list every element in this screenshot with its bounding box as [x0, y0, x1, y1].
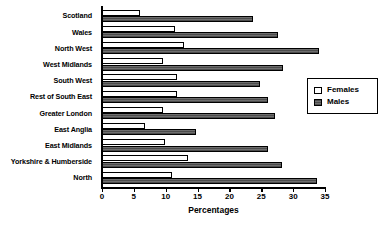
legend-label: Males: [327, 98, 349, 106]
legend-label: Females: [327, 86, 359, 94]
category-label: West Midlands: [0, 61, 96, 68]
category-label: North: [0, 174, 96, 181]
bar-females: [102, 42, 184, 48]
bar-group: [102, 73, 325, 89]
category-label: North West: [0, 45, 96, 52]
bar-group: [102, 57, 325, 73]
bar-females: [102, 139, 165, 145]
bar-chart: ScotlandWalesNorth WestWest MidlandsSout…: [0, 0, 387, 235]
x-tick-label: 10: [161, 193, 170, 201]
bar-group: [102, 121, 325, 137]
bar-males: [102, 65, 283, 71]
bar-females: [102, 155, 188, 161]
category-label: Scotland: [0, 12, 96, 19]
bar-males: [102, 16, 253, 22]
bar-group: [102, 24, 325, 40]
x-tick-label: 30: [289, 193, 298, 201]
bar-males: [102, 129, 196, 135]
bar-males: [102, 146, 268, 152]
x-tick-label: 15: [193, 193, 202, 201]
bar-males: [102, 48, 319, 54]
category-label: East Midlands: [0, 142, 96, 149]
category-label: Rest of South East: [0, 93, 96, 100]
bar-group: [102, 8, 325, 24]
x-tick-label: 0: [100, 193, 104, 201]
x-tick-label: 35: [321, 193, 330, 201]
plot-area: [102, 8, 325, 186]
legend-swatch-females: [314, 87, 322, 94]
bar-females: [102, 123, 145, 129]
category-label: Yorkshire & Humberside: [0, 158, 96, 165]
bar-group: [102, 137, 325, 153]
chart-legend: FemalesMales: [307, 78, 378, 114]
legend-item: Females: [314, 84, 371, 96]
category-label: Greater London: [0, 110, 96, 117]
bar-males: [102, 162, 282, 168]
category-label: East Anglia: [0, 126, 96, 133]
category-axis-labels: ScotlandWalesNorth WestWest MidlandsSout…: [0, 8, 96, 186]
x-axis-title: Percentages: [102, 206, 325, 215]
bar-males: [102, 178, 317, 184]
bar-males: [102, 81, 260, 87]
category-label: Wales: [0, 29, 96, 36]
bar-females: [102, 74, 177, 80]
bar-group: [102, 154, 325, 170]
x-tick-label: 5: [132, 193, 136, 201]
bar-females: [102, 91, 177, 97]
bar-males: [102, 97, 268, 103]
bar-females: [102, 10, 140, 16]
bar-females: [102, 58, 163, 64]
category-label: South West: [0, 77, 96, 84]
legend-item: Males: [314, 96, 371, 108]
bar-males: [102, 113, 275, 119]
x-tick-label: 25: [257, 193, 266, 201]
bar-group: [102, 170, 325, 186]
bar-group: [102, 89, 325, 105]
bar-females: [102, 172, 172, 178]
bar-group: [102, 105, 325, 121]
bar-group: [102, 40, 325, 56]
bar-females: [102, 26, 175, 32]
bar-females: [102, 107, 163, 113]
x-tick-label: 20: [225, 193, 234, 201]
legend-swatch-males: [314, 99, 322, 106]
bar-males: [102, 32, 278, 38]
